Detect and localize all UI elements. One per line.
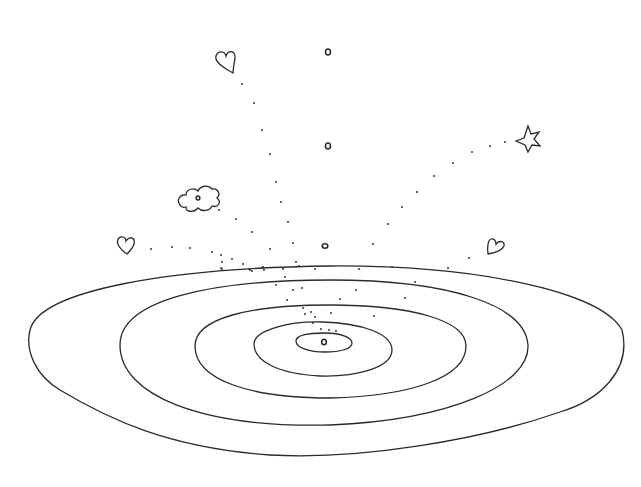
small-circles [322, 49, 331, 345]
circle-icon [322, 244, 328, 248]
star-icon [516, 126, 540, 152]
ellipse-outer [29, 266, 624, 456]
concentric-ellipses [29, 266, 624, 456]
sketch-canvas [0, 0, 641, 487]
circle-icon [326, 143, 331, 149]
ellipse-inner [296, 333, 352, 352]
heart-icon [488, 239, 504, 254]
heart-icon [216, 52, 235, 73]
flower-icon [178, 186, 219, 211]
circle-icon [326, 49, 331, 55]
ellipse-4 [254, 322, 392, 376]
heart-icon [117, 237, 134, 254]
circle-icon [322, 339, 327, 345]
dotted-trails [150, 83, 506, 332]
